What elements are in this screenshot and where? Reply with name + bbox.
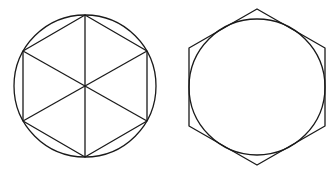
inscribed-circle [189,19,325,155]
hexagon-inscribed-in-circle-figure [14,15,156,157]
circle-inscribed-in-hexagon-figure [189,9,325,165]
geometry-diagram [0,0,334,176]
circumscribed-hexagon [189,9,325,165]
